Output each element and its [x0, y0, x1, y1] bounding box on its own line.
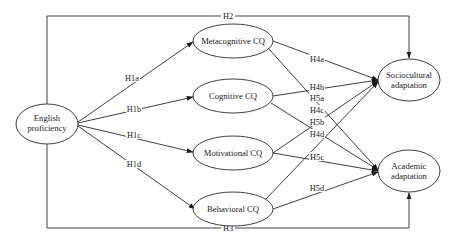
node-meta-label: Metacognitive CQ [201, 36, 266, 46]
edge-H4b [273, 80, 378, 96]
edge-label-H1c: H1c [127, 131, 141, 140]
node-acad-line2: adaptation [391, 171, 427, 181]
edge-H5c [273, 153, 378, 171]
edge-label-H5c: H5c [310, 153, 324, 162]
node-cog-label: Cognitive CQ [209, 91, 258, 101]
edge-label-H1b: H1b [127, 105, 141, 114]
path-model-diagram: H2 H3 H1a H1b H1c H1d [0, 0, 456, 243]
node-metacognitive-cq: Metacognitive CQ [193, 24, 273, 58]
node-english-proficiency: English proficiency [16, 104, 78, 144]
edge-label-H4b: H4b [310, 83, 324, 92]
edge-label-H4c: H4c [310, 106, 324, 115]
edge-H4c [273, 81, 378, 153]
node-beh-label: Behavioral CQ [207, 204, 260, 214]
edge-label-H4d: H4d [310, 130, 325, 139]
edge-label-H1d: H1d [127, 160, 142, 169]
edge-label-H5d: H5d [310, 184, 325, 193]
node-cognitive-cq: Cognitive CQ [193, 79, 273, 113]
edge-H5d [273, 172, 378, 209]
node-english-line2: proficiency [27, 123, 67, 133]
edge-label-H1a: H1a [125, 74, 139, 83]
node-sociocultural-adaptation: Sociocultural adaptation [378, 59, 440, 101]
node-academic-adaptation: Academic adaptation [378, 150, 440, 192]
edge-label-H4a: H4a [310, 55, 324, 64]
node-socio-line2: adaptation [391, 80, 427, 90]
node-acad-line1: Academic [392, 161, 427, 171]
node-motivational-cq: Motivational CQ [193, 136, 273, 170]
edge-label-H5b: H5b [310, 118, 324, 127]
node-english-line1: English [34, 113, 61, 123]
edge-label-H5a: H5a [310, 94, 324, 103]
edge-labels-right: H4a H4b H5a H4c H5b H4d H5c H5d [309, 54, 325, 193]
node-mot-label: Motivational CQ [204, 148, 263, 158]
node-socio-line1: Sociocultural [386, 70, 432, 80]
edge-label-H2: H2 [223, 12, 233, 21]
node-behavioral-cq: Behavioral CQ [193, 192, 273, 226]
edge-H4a [273, 41, 378, 80]
